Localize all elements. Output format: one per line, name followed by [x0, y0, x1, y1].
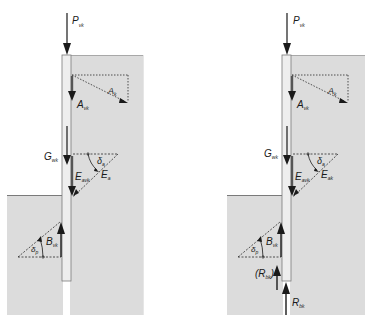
load-arrow-pvk	[283, 13, 291, 55]
load-arrow-pvk	[63, 13, 71, 55]
pile	[282, 55, 291, 281]
label-gwk: Gwk	[264, 148, 278, 160]
soil-excavation-side	[227, 195, 283, 315]
label-pvk: Pvk	[293, 15, 305, 28]
force-arrow-rbk	[282, 282, 290, 315]
soil-retained	[70, 55, 144, 315]
soil-excavation-side	[7, 195, 63, 315]
right-diagram: Pvk Ak Avk Gwk δa	[227, 13, 365, 315]
label-rbk-optional: (Rbk)	[255, 268, 274, 280]
left-diagram: Pvk Ak Avk Gwk δa	[7, 13, 144, 315]
label-gwk: Gwk	[44, 151, 58, 163]
pile-force-diagrams: Pvk Ak Avk Gwk δa	[0, 0, 373, 329]
pile	[62, 55, 71, 281]
label-pvk: Pvk	[72, 15, 84, 28]
